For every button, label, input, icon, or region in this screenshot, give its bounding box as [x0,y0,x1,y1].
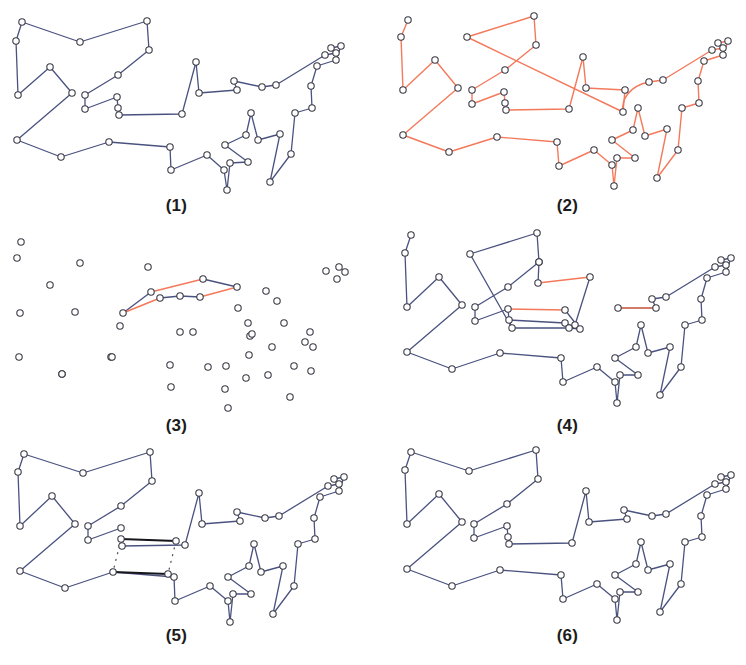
panel-5-canvas [0,440,373,640]
panel-5-blue-edges [18,452,344,622]
panel-6-canvas [373,440,746,640]
panel-5-label: (5) [0,626,363,646]
panel-4-blue-edges [405,233,731,403]
panel-6-label: (6) [381,626,746,646]
panel-1-edges [16,21,341,190]
panel-4-extra-edges [538,262,580,329]
panel-1-label: (1) [0,196,363,216]
panel-1-canvas [0,0,373,200]
panel-4-canvas [373,220,746,420]
panel-3-nodes [14,239,348,411]
panel-4-label: (4) [381,416,746,436]
panel-4-orange-edges [508,277,656,310]
figure-grid: (1) [0,0,746,665]
panel-2: (2) [373,0,746,220]
panel-3: (3) [0,220,373,440]
panel-2-label: (2) [381,196,746,216]
panel-1: (1) [0,0,373,220]
panel-6: (6) [373,440,746,665]
panel-3-label: (3) [0,416,363,436]
panel-2-canvas [373,0,746,200]
panel-6-edges [405,450,731,620]
panel-4: (4) [373,220,746,440]
panel-5: (5) [0,440,373,665]
panel-3-canvas [0,220,373,420]
panel-2-edges [401,16,728,186]
